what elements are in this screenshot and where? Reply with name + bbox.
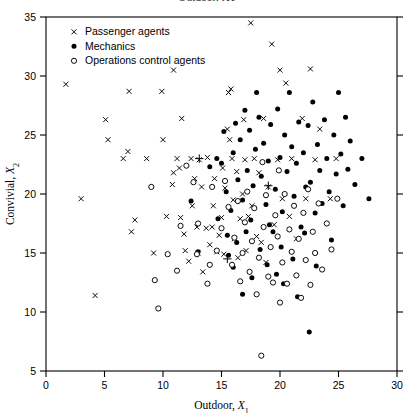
axis-ticks — [40, 17, 403, 377]
open-circle-marker — [266, 274, 271, 279]
open-circle-marker — [263, 193, 268, 198]
x-tick-label: 15 — [216, 379, 228, 391]
cross-marker — [129, 229, 134, 234]
cross-marker — [234, 169, 239, 174]
y-tick-label: 20 — [24, 188, 36, 200]
filled-circle-marker — [338, 151, 343, 156]
cross-marker — [334, 156, 339, 161]
cross-marker — [179, 116, 184, 121]
x-tick-label: 30 — [391, 379, 403, 391]
filled-circle-marker — [215, 216, 220, 221]
filled-circle-marker — [251, 183, 256, 188]
open-circle-marker — [249, 239, 254, 244]
series-operations-control-agents — [149, 160, 340, 359]
filled-circle-marker — [225, 233, 230, 238]
x-tick-label: 0 — [43, 379, 49, 391]
open-circle-marker — [273, 213, 278, 218]
cross-marker — [248, 20, 253, 25]
open-circle-marker — [289, 249, 294, 254]
open-circle-marker — [245, 189, 250, 194]
filled-circle-marker — [327, 189, 332, 194]
filled-circle-marker — [233, 121, 238, 126]
cross-marker — [127, 89, 132, 94]
open-circle-marker — [270, 280, 275, 285]
data-points-layer — [63, 20, 371, 358]
filled-circle-marker — [221, 129, 226, 134]
plot-frame-rect — [46, 17, 397, 371]
open-circle-marker — [71, 58, 76, 63]
cross-marker — [308, 66, 313, 71]
filled-circle-marker — [290, 256, 295, 261]
cross-marker — [287, 214, 292, 219]
plot-canvas: 0510152025305101520253035 Passenger agen… — [0, 0, 414, 413]
filled-circle-marker — [256, 115, 261, 120]
filled-circle-marker — [348, 138, 353, 143]
cross-marker — [103, 117, 108, 122]
filled-circle-marker — [310, 99, 315, 104]
filled-circle-marker — [258, 247, 263, 252]
axis-tick-labels: 0510152025305101520253035 — [24, 11, 403, 391]
filled-circle-marker — [296, 120, 301, 125]
filled-circle-marker — [279, 245, 284, 250]
cross-marker — [207, 242, 212, 247]
cross-marker — [313, 157, 318, 162]
filled-circle-marker — [268, 122, 273, 127]
cross-marker — [144, 156, 149, 161]
open-circle-marker — [308, 282, 313, 287]
open-circle-marker — [194, 252, 199, 257]
open-circle-marker — [152, 278, 157, 283]
filled-circle-marker — [324, 156, 329, 161]
scatter-plot-figure: Outdoor, X1 0510152025305101520253035 Pa… — [0, 0, 414, 413]
legend-label-2: Operations control agents — [85, 54, 205, 66]
filled-circle-marker — [245, 168, 250, 173]
x-tick-label: 25 — [333, 379, 345, 391]
open-circle-marker — [268, 245, 273, 250]
open-circle-marker — [301, 210, 306, 215]
filled-circle-marker — [248, 217, 253, 222]
cross-marker — [189, 156, 194, 161]
legend-label-1: Mechanics — [85, 40, 135, 52]
open-circle-marker — [276, 168, 281, 173]
open-circle-marker — [229, 262, 234, 267]
open-circle-marker — [205, 281, 210, 286]
filled-circle-marker — [301, 150, 306, 155]
open-circle-marker — [260, 160, 265, 165]
cross-marker — [164, 214, 169, 219]
cross-marker — [204, 226, 209, 231]
open-circle-marker — [254, 292, 259, 297]
filled-circle-marker — [314, 263, 319, 268]
filled-circle-marker — [278, 155, 283, 160]
filled-circle-marker — [343, 115, 348, 120]
filled-circle-marker — [341, 203, 346, 208]
cross-marker — [93, 293, 98, 298]
filled-circle-marker — [287, 90, 292, 95]
y-axis-title: Convivial, X2 — [4, 163, 21, 225]
filled-circle-marker — [315, 142, 320, 147]
cross-marker — [230, 156, 235, 161]
open-circle-marker — [291, 203, 296, 208]
x-tick-label: 20 — [274, 379, 286, 391]
open-circle-marker — [219, 226, 224, 231]
cross-marker — [178, 215, 183, 220]
cross-marker — [217, 233, 222, 238]
cross-marker — [183, 248, 188, 253]
filled-circle-marker — [274, 272, 279, 277]
filled-circle-marker — [253, 147, 258, 152]
cross-marker — [212, 176, 217, 181]
filled-circle-marker — [345, 167, 350, 172]
filled-circle-marker — [289, 144, 294, 149]
open-circle-marker — [280, 260, 285, 265]
filled-circle-marker — [242, 108, 247, 113]
filled-circle-marker — [219, 161, 224, 166]
cross-marker — [175, 156, 180, 161]
filled-circle-marker — [226, 253, 231, 258]
x-tick-label: 5 — [102, 379, 108, 391]
open-circle-marker — [191, 180, 196, 185]
filled-circle-marker — [207, 164, 212, 169]
plus-centroid-marker — [195, 154, 203, 162]
filled-circle-marker — [189, 199, 194, 204]
filled-circle-marker — [266, 158, 271, 163]
filled-circle-marker — [244, 229, 249, 234]
filled-circle-marker — [263, 202, 268, 207]
cross-marker — [303, 196, 308, 201]
